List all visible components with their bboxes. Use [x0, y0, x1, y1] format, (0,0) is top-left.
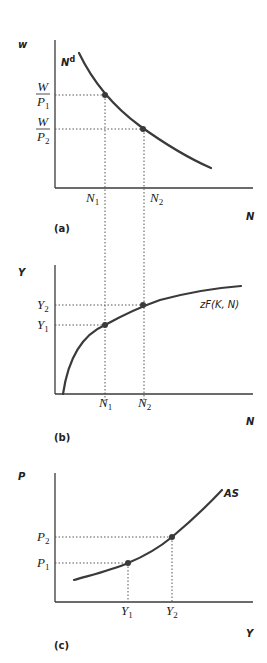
point-2: [169, 534, 175, 540]
y-tick-y1: Y1: [37, 317, 49, 334]
aggregate-supply-curve: [74, 490, 222, 580]
svg-text:P2: P2: [36, 129, 49, 146]
x-axis-label-n: N: [246, 416, 255, 427]
y-tick-p2: P2: [36, 529, 49, 546]
curve-label-as: AS: [223, 488, 239, 499]
svg-text:W: W: [37, 114, 49, 129]
x-tick-n2: N2: [137, 395, 151, 412]
x-tick-n1: N1: [85, 190, 99, 207]
y-axis-label-w: w: [18, 39, 28, 50]
curve-label-zf: zF(K, N): [199, 299, 239, 310]
y-tick-w-p1: W P1: [36, 79, 50, 111]
y-axis-label-y: Y: [18, 267, 27, 278]
point-1: [102, 322, 108, 328]
y-axis-label-p: P: [18, 471, 26, 482]
y-tick-w-p2: W P2: [36, 114, 50, 146]
x-tick-y2: Y2: [166, 603, 178, 620]
panel-label-b: (b): [54, 432, 70, 443]
curve-label-nd: Nd: [61, 55, 75, 68]
x-tick-n2: N2: [149, 190, 163, 207]
point-1: [102, 92, 108, 98]
figure: w Nd W P1 W P2 N1 N2 N (a) Y: [0, 0, 267, 663]
y-tick-y2: Y2: [37, 297, 49, 314]
svg-text:P1: P1: [36, 94, 49, 111]
x-tick-y1: Y1: [121, 603, 133, 620]
panel-label-c: (c): [54, 640, 69, 651]
svg-text:W: W: [37, 79, 49, 94]
y-tick-p1: P1: [36, 555, 49, 572]
point-2: [140, 126, 146, 132]
x-axis-label-n: N: [246, 211, 255, 222]
panel-a: w Nd W P1 W P2 N1 N2 N (a): [18, 39, 255, 405]
point-2: [140, 302, 146, 308]
panel-label-a: (a): [54, 223, 70, 234]
x-tick-n1: N1: [98, 395, 112, 412]
labor-demand-curve: [79, 53, 211, 168]
panel-c: P AS P2 P1 Y1 Y2 Y (c): [18, 471, 255, 651]
panel-b: Y zF(K, N) Y2 Y1 N1 N2 N (b): [18, 265, 255, 443]
x-axis-label-y: Y: [246, 628, 255, 639]
point-1: [125, 560, 131, 566]
